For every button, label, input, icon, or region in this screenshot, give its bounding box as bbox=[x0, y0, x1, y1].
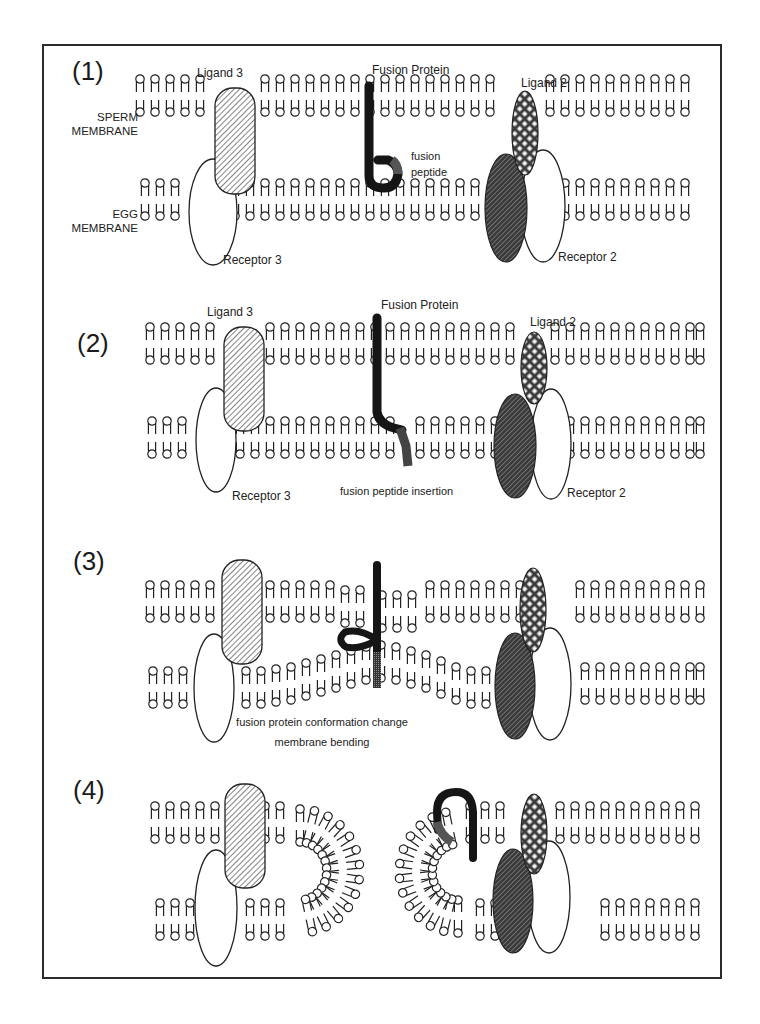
label-ligand2: Ligand 2 bbox=[521, 77, 567, 89]
label-ligand3: Ligand 3 bbox=[207, 306, 253, 318]
fusion-protein-shape bbox=[377, 318, 402, 430]
panel-2 bbox=[196, 318, 571, 499]
label-receptor2: Receptor 2 bbox=[558, 251, 617, 263]
label-sperm-membrane: SPERM MEMBRANE bbox=[60, 110, 138, 139]
label-fusion-protein: Fusion Protein bbox=[381, 299, 458, 311]
ligand2-shape bbox=[512, 91, 538, 175]
label-fusion-peptide-line1: fusion bbox=[411, 150, 440, 162]
caption-membrane-bending: membrane bending bbox=[217, 737, 427, 748]
label-sperm-line2: MEMBRANE bbox=[72, 125, 138, 137]
label-fusion-protein: Fusion Protein bbox=[372, 64, 449, 76]
panel-3 bbox=[146, 560, 704, 742]
step-label-3: (3) bbox=[73, 548, 105, 574]
label-egg-line1: EGG bbox=[112, 208, 138, 220]
caption-conformation-change: fusion protein conformation change bbox=[217, 717, 427, 728]
label-fusion-peptide-insertion: fusion peptide insertion bbox=[340, 486, 453, 497]
ligand3-shape bbox=[215, 88, 255, 194]
label-fusion-peptide-line2: peptide bbox=[411, 166, 447, 178]
step-label-4: (4) bbox=[73, 777, 105, 803]
step-label-2: (2) bbox=[77, 330, 109, 356]
diagram-artwork bbox=[0, 0, 760, 1024]
label-receptor3: Receptor 3 bbox=[232, 490, 291, 502]
label-sperm-line1: SPERM bbox=[97, 111, 138, 123]
ligand2-shape bbox=[521, 332, 547, 404]
label-ligand2: Ligand 2 bbox=[530, 316, 576, 328]
label-egg-membrane: EGG MEMBRANE bbox=[60, 207, 138, 236]
fusion-peptide-shape bbox=[392, 160, 398, 174]
panel-4 bbox=[151, 784, 699, 966]
fusion-diagram-figure: (1) Ligand 3 Fusion Protein Ligand 2 SPE… bbox=[0, 0, 760, 1024]
egg-partner-shape bbox=[494, 394, 536, 498]
label-receptor2: Receptor 2 bbox=[567, 487, 626, 499]
label-ligand3: Ligand 3 bbox=[197, 67, 243, 79]
ligand3-shape bbox=[224, 327, 264, 431]
fusion-peptide-shape bbox=[400, 428, 408, 466]
receptor2-shape bbox=[531, 389, 571, 499]
label-receptor3: Receptor 3 bbox=[223, 254, 282, 266]
label-egg-line2: MEMBRANE bbox=[72, 222, 138, 234]
panel-1 bbox=[189, 86, 565, 265]
label-fusion-peptide: fusion peptide bbox=[411, 149, 447, 181]
step-label-1: (1) bbox=[72, 58, 104, 84]
